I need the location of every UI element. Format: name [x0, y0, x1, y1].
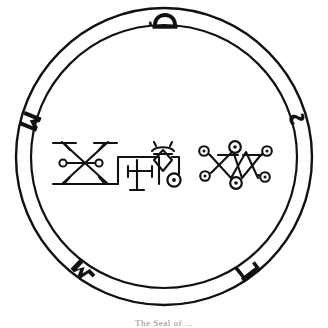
node-x-right	[95, 159, 102, 166]
node-w-top-center	[229, 141, 241, 153]
node-w-lower-right	[260, 172, 270, 182]
figure-caption: The Seal of ...	[0, 319, 328, 328]
node-w-lower-right-dot	[264, 176, 267, 179]
node-w-lower-left	[200, 171, 210, 181]
node-w-upper-left	[199, 146, 209, 156]
node-w-upper-right	[262, 146, 272, 156]
node-w-upper-right-dot	[266, 150, 269, 153]
node-w-upper-left-dot	[203, 150, 206, 153]
dotted-circle-lower-dot	[172, 178, 176, 182]
dotted-circle-lower	[167, 173, 180, 186]
figure-background	[0, 0, 328, 328]
node-w-top-center-dot	[233, 145, 237, 149]
seal-figure: Demon Seal Circular double-ring magical …	[0, 0, 328, 328]
letter-top-glyph-base	[153, 26, 178, 29]
node-w-lower-left-dot	[204, 175, 207, 178]
node-w-bottom-center-dot	[234, 181, 238, 185]
node-w-bottom-center	[230, 177, 242, 189]
node-x-left	[59, 159, 66, 166]
